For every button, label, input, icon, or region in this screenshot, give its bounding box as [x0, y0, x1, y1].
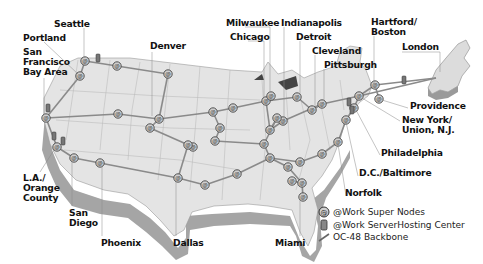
- svg-text:@: @: [230, 105, 236, 111]
- super-node-icon: @: [288, 177, 296, 185]
- super-node-icon: @: [209, 108, 217, 116]
- svg-text:@: @: [212, 138, 218, 144]
- super-node-icon: @: [96, 159, 104, 167]
- super-node-icon: @: [260, 140, 268, 148]
- network-map: @@@@@@@@@@@@@@@@@@@@@@@@@@@@@@@@@@@@@@@@…: [0, 0, 483, 264]
- legend-label-super-nodes: @Work Super Nodes: [333, 206, 425, 219]
- super-node-icon: @: [371, 81, 379, 89]
- legend: @ @Work Super Nodes @Work ServerHosting …: [318, 206, 465, 244]
- label-philadelphia: Philadelphia: [381, 148, 443, 158]
- svg-text:@: @: [156, 116, 162, 122]
- super-node-icon: @: [308, 106, 316, 114]
- super-node-icon: @: [211, 137, 219, 145]
- super-node-icon: @: [318, 206, 330, 218]
- svg-text:@: @: [77, 73, 83, 79]
- svg-text:@: @: [267, 155, 273, 161]
- super-node-icon: @: [266, 154, 274, 162]
- server-hosting-icon: [96, 54, 100, 62]
- svg-text:@: @: [82, 58, 88, 64]
- legend-item-super-nodes: @ @Work Super Nodes: [318, 206, 465, 219]
- svg-text:@: @: [319, 101, 325, 107]
- svg-text:@: @: [319, 151, 325, 157]
- label-pittsburgh: Pittsburgh: [324, 60, 377, 70]
- svg-text:@: @: [217, 125, 223, 131]
- super-node-icon: @: [81, 57, 89, 65]
- label-miami: Miami: [275, 238, 305, 248]
- svg-text:@: @: [274, 115, 280, 121]
- label-cleveland: Cleveland: [312, 46, 361, 56]
- svg-text:@: @: [147, 125, 153, 131]
- legend-label-server-hosting: @Work ServerHosting Center: [333, 219, 465, 232]
- svg-text:@: @: [261, 141, 267, 147]
- server-hosting-icon: [350, 106, 354, 114]
- super-node-icon: @: [146, 124, 154, 132]
- svg-text:@: @: [268, 93, 274, 99]
- super-node-icon: @: [267, 92, 275, 100]
- server-hosting-icon: [61, 137, 65, 145]
- super-node-icon: @: [273, 114, 281, 122]
- svg-text:@: @: [115, 111, 121, 117]
- label-sandiego: San Diego: [69, 208, 98, 228]
- label-dallas: Dallas: [173, 238, 204, 248]
- super-node-icon: @: [299, 193, 307, 201]
- super-node-icon: @: [293, 93, 301, 101]
- legend-item-backbone: OC-48 Backbone: [318, 231, 465, 244]
- super-node-icon: @: [318, 150, 326, 158]
- label-london: London: [402, 42, 439, 52]
- label-hartford: Hartford/ Boston: [371, 17, 417, 37]
- svg-text:@: @: [289, 178, 295, 184]
- super-node-icon: @: [298, 179, 306, 187]
- label-denver: Denver: [150, 41, 186, 51]
- leader-line: [346, 122, 358, 176]
- super-node-icon: @: [229, 104, 237, 112]
- svg-text:@: @: [234, 171, 240, 177]
- svg-text:@: @: [309, 107, 315, 113]
- svg-text:@: @: [299, 180, 305, 186]
- super-node-icon: @: [318, 100, 326, 108]
- svg-text:@: @: [294, 94, 300, 100]
- svg-text:@: @: [43, 115, 49, 121]
- super-node-icon: @: [164, 70, 172, 78]
- label-newyork: New York/ Union, N.J.: [402, 115, 455, 135]
- server-hosting-icon: [52, 132, 56, 140]
- label-detroit: Detroit: [296, 32, 331, 42]
- super-node-icon: @: [216, 124, 224, 132]
- svg-text:@: @: [54, 144, 60, 150]
- server-hosting-icon: [347, 98, 351, 106]
- svg-text:@: @: [300, 194, 306, 200]
- svg-text:@: @: [321, 209, 328, 217]
- svg-text:@: @: [185, 142, 191, 148]
- label-dc: D.C./Baltimore: [359, 168, 431, 178]
- super-node-icon: @: [184, 141, 192, 149]
- super-node-icon: @: [42, 114, 50, 122]
- super-node-icon: @: [233, 170, 241, 178]
- super-node-icon: @: [114, 110, 122, 118]
- svg-text:@: @: [356, 93, 362, 99]
- svg-text:@: @: [376, 96, 382, 102]
- label-providence: Providence: [410, 101, 466, 111]
- svg-text:@: @: [71, 155, 77, 161]
- server-hosting-icon: [318, 219, 330, 231]
- super-node-icon: @: [70, 154, 78, 162]
- server-hosting-icon: [46, 104, 50, 112]
- svg-text:@: @: [297, 159, 303, 165]
- leader-line: [382, 100, 408, 108]
- super-node-icon: @: [284, 163, 292, 171]
- label-phoenix: Phoenix: [101, 238, 141, 248]
- legend-item-server-hosting: @Work ServerHosting Center: [318, 219, 465, 232]
- label-chicago: Chicago: [230, 32, 270, 42]
- label-seattle: Seattle: [54, 19, 90, 29]
- label-indianapolis: Indianapolis: [281, 18, 342, 28]
- super-node-icon: @: [266, 126, 274, 134]
- svg-text:@: @: [372, 82, 378, 88]
- label-portland: Portland: [23, 33, 66, 43]
- svg-text:@: @: [114, 63, 120, 69]
- leader-line: [356, 110, 380, 155]
- label-la: L.A./ Orange County: [23, 173, 60, 203]
- svg-text:@: @: [202, 182, 208, 188]
- backbone-line-icon: [318, 231, 330, 243]
- svg-text:@: @: [210, 109, 216, 115]
- svg-text:@: @: [175, 175, 181, 181]
- svg-text:@: @: [285, 164, 291, 170]
- leader-line: [402, 52, 440, 72]
